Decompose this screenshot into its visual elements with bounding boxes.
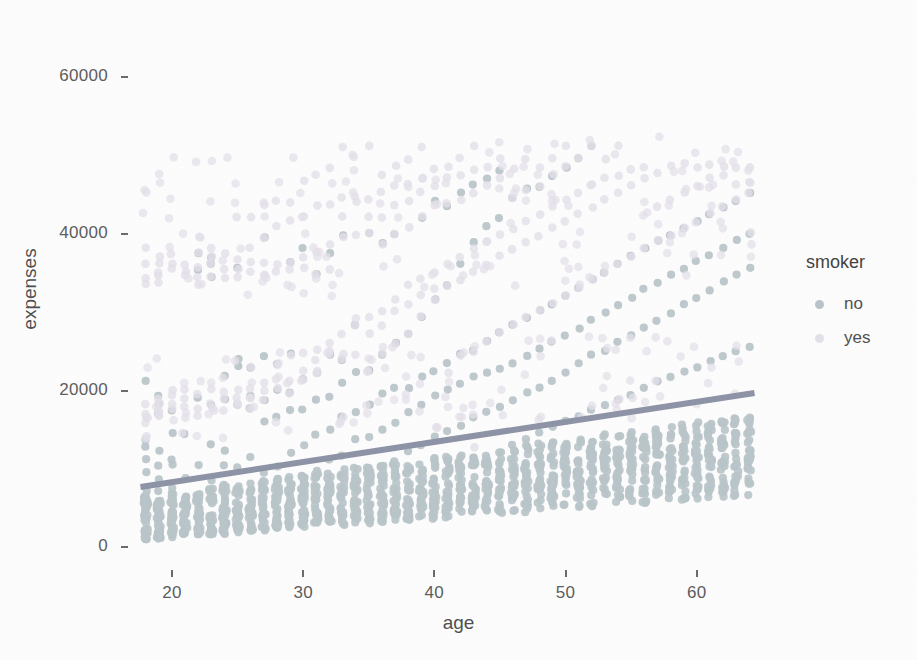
data-point bbox=[550, 139, 559, 148]
data-point bbox=[260, 386, 269, 395]
data-point bbox=[523, 388, 531, 396]
x-tick-label: 60 bbox=[657, 583, 737, 603]
data-point bbox=[365, 503, 373, 511]
data-point bbox=[470, 165, 479, 174]
data-point bbox=[679, 443, 687, 451]
data-point bbox=[364, 195, 373, 204]
data-point bbox=[639, 285, 647, 293]
data-point bbox=[390, 201, 399, 210]
data-point bbox=[628, 394, 637, 403]
data-point bbox=[378, 307, 387, 316]
data-point bbox=[524, 450, 532, 458]
data-point bbox=[220, 265, 229, 274]
data-point bbox=[548, 441, 556, 449]
data-point bbox=[681, 480, 689, 488]
data-point bbox=[274, 372, 283, 381]
data-point bbox=[560, 257, 569, 266]
data-point bbox=[325, 489, 333, 497]
data-point bbox=[391, 295, 400, 304]
data-point bbox=[196, 233, 205, 242]
data-point bbox=[708, 457, 716, 465]
data-point bbox=[732, 462, 740, 470]
data-point bbox=[549, 481, 557, 489]
data-point bbox=[706, 209, 715, 218]
legend-item-no[interactable]: no bbox=[806, 287, 911, 321]
data-point bbox=[654, 437, 662, 445]
data-point bbox=[287, 283, 296, 292]
data-point bbox=[680, 454, 688, 462]
data-point bbox=[705, 445, 713, 453]
data-point bbox=[614, 188, 623, 197]
data-point bbox=[548, 154, 557, 163]
data-point bbox=[469, 180, 477, 188]
data-point bbox=[562, 489, 570, 497]
data-point bbox=[407, 351, 416, 360]
data-point bbox=[731, 417, 739, 425]
legend-item-yes[interactable]: yes bbox=[806, 321, 911, 355]
data-point bbox=[218, 256, 227, 265]
data-point bbox=[640, 198, 649, 207]
data-point bbox=[663, 249, 672, 258]
data-point bbox=[680, 367, 688, 375]
legend-swatch bbox=[815, 300, 824, 309]
data-points-layer bbox=[139, 132, 756, 543]
data-point bbox=[141, 500, 149, 508]
data-point bbox=[547, 336, 556, 345]
data-point bbox=[521, 186, 530, 195]
data-point bbox=[456, 492, 464, 500]
data-point bbox=[691, 148, 700, 157]
data-point bbox=[311, 493, 319, 501]
data-point bbox=[626, 333, 635, 342]
data-point bbox=[405, 197, 414, 206]
data-point bbox=[733, 236, 741, 244]
data-point bbox=[140, 186, 149, 195]
data-point bbox=[246, 394, 255, 403]
data-point bbox=[482, 222, 490, 230]
data-point bbox=[337, 193, 346, 202]
data-point bbox=[273, 505, 281, 513]
data-point bbox=[379, 240, 388, 249]
data-point bbox=[312, 274, 321, 283]
data-point bbox=[729, 157, 738, 166]
data-point bbox=[259, 396, 268, 405]
data-point bbox=[259, 483, 267, 491]
point-marker-icon bbox=[806, 291, 832, 317]
data-point bbox=[615, 395, 624, 404]
data-point bbox=[298, 244, 306, 252]
data-point bbox=[231, 199, 240, 208]
data-point bbox=[522, 435, 530, 443]
data-point bbox=[626, 165, 635, 174]
x-tick-mark bbox=[433, 570, 435, 577]
data-point bbox=[393, 255, 402, 264]
data-point bbox=[363, 368, 372, 377]
data-point bbox=[182, 493, 190, 501]
data-point bbox=[745, 436, 753, 444]
data-point bbox=[639, 244, 648, 253]
data-point bbox=[420, 283, 429, 292]
data-point bbox=[274, 384, 283, 393]
data-point bbox=[534, 499, 542, 507]
data-point bbox=[271, 485, 279, 493]
data-point bbox=[455, 154, 464, 163]
data-point bbox=[339, 499, 347, 507]
data-point bbox=[245, 243, 254, 252]
data-point bbox=[457, 422, 465, 430]
data-point bbox=[681, 467, 689, 475]
data-point bbox=[721, 145, 730, 154]
data-point bbox=[286, 502, 294, 510]
data-point bbox=[522, 196, 531, 205]
data-point bbox=[495, 251, 504, 260]
data-point bbox=[521, 238, 530, 247]
data-point bbox=[207, 244, 216, 253]
data-point bbox=[404, 183, 413, 192]
data-point bbox=[536, 334, 545, 343]
data-point bbox=[431, 504, 439, 512]
data-point bbox=[482, 408, 490, 416]
data-point bbox=[155, 447, 163, 455]
data-point bbox=[732, 440, 740, 448]
data-point bbox=[509, 320, 518, 329]
data-point bbox=[326, 265, 335, 274]
data-point bbox=[402, 372, 411, 381]
data-point bbox=[142, 432, 151, 441]
data-point bbox=[535, 345, 543, 353]
